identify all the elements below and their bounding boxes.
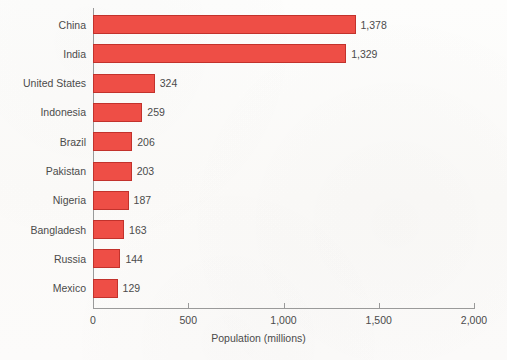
bar-value-label: 163 — [129, 224, 147, 236]
x-tick-label: 0 — [90, 314, 96, 326]
bar-value-label: 324 — [160, 77, 178, 89]
chart-page: ChinaIndiaUnited StatesIndonesiaBrazilPa… — [0, 0, 507, 360]
bar-india — [93, 44, 346, 63]
x-axis-title: Population (millions) — [211, 332, 306, 344]
bar-value-label: 187 — [134, 194, 152, 206]
bar-russia — [93, 249, 120, 268]
bar-china — [93, 15, 356, 34]
bar-value-label: 206 — [137, 136, 155, 148]
bar-nigeria — [93, 191, 129, 210]
bar-bangladesh — [93, 220, 124, 239]
x-tick-mark — [188, 303, 189, 308]
x-tick-mark — [379, 303, 380, 308]
category-label: Mexico — [0, 282, 93, 294]
category-label: China — [0, 19, 93, 31]
x-tick-mark — [284, 303, 285, 308]
x-tick-mark — [93, 303, 94, 308]
bar-value-label: 144 — [125, 253, 143, 265]
category-label: Indonesia — [0, 106, 93, 118]
category-label: United States — [0, 77, 93, 89]
x-tick-mark — [474, 303, 475, 308]
bar-value-label: 1,329 — [351, 48, 377, 60]
x-tick-label: 1,000 — [270, 314, 296, 326]
bar-pakistan — [93, 162, 132, 181]
category-label: Brazil — [0, 136, 93, 148]
bar-value-label: 1,378 — [361, 19, 387, 31]
bar-value-label: 259 — [147, 106, 165, 118]
bar-mexico — [93, 279, 118, 298]
bar-value-label: 129 — [123, 282, 141, 294]
x-axis-line — [93, 308, 475, 309]
x-tick-label: 2,000 — [461, 314, 487, 326]
bar-brazil — [93, 132, 132, 151]
bar-united-states — [93, 74, 155, 93]
bar-value-label: 203 — [137, 165, 155, 177]
x-tick-label: 500 — [179, 314, 197, 326]
x-tick-label: 1,500 — [366, 314, 392, 326]
bar-indonesia — [93, 103, 142, 122]
category-label: Pakistan — [0, 165, 93, 177]
category-label: Nigeria — [0, 194, 93, 206]
bar-chart-plot-area: ChinaIndiaUnited StatesIndonesiaBrazilPa… — [0, 0, 507, 360]
category-label: Russia — [0, 253, 93, 265]
category-label: India — [0, 48, 93, 60]
category-label: Bangladesh — [0, 224, 93, 236]
